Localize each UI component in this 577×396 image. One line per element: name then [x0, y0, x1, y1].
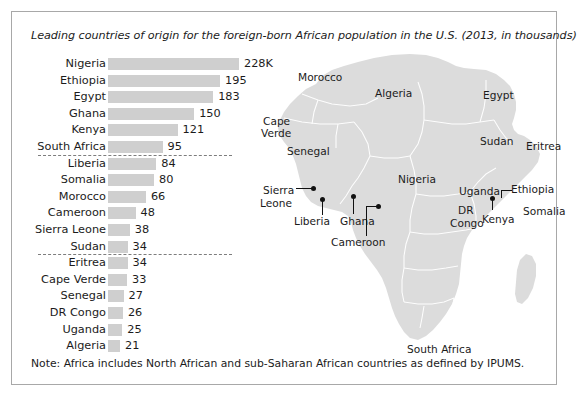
bar-value-label: 80 — [159, 173, 173, 186]
bar-row: South Africa95 — [12, 139, 282, 156]
map-label-cape-verde-2: Verde — [261, 128, 291, 140]
bar-fill — [108, 290, 124, 302]
uganda-leader — [501, 190, 512, 191]
map-label-cameroon: Cameroon — [331, 237, 386, 249]
bar-track — [108, 257, 128, 269]
bar-value-label: 121 — [183, 123, 205, 136]
bar-fill — [108, 91, 213, 103]
map-label-dr-congo: DR — [458, 205, 474, 217]
bar-category-label: Nigeria — [66, 57, 106, 70]
bar-fill — [108, 207, 136, 219]
bar-value-label: 33 — [132, 273, 146, 286]
bar-fill — [108, 158, 156, 170]
madagascar-path — [515, 254, 536, 304]
bar-track — [108, 207, 136, 219]
map-label-nigeria: Nigeria — [398, 174, 436, 186]
bar-value-label: 27 — [129, 289, 143, 302]
bar-track — [108, 191, 146, 203]
bar-row: DR Congo26 — [12, 305, 282, 322]
bar-row: Nigeria228K — [12, 56, 282, 73]
bar-row: Sudan34 — [12, 239, 282, 256]
bar-value-label: 84 — [161, 157, 175, 170]
bar-value-label: 150 — [199, 107, 221, 120]
map-label-liberia: Liberia — [294, 216, 330, 228]
map-label-senegal: Senegal — [287, 146, 330, 158]
bar-fill — [108, 124, 178, 136]
bar-category-label: Kenya — [71, 123, 106, 136]
map-label-sudan: Sudan — [480, 136, 513, 148]
bar-row: Cape Verde33 — [12, 272, 282, 289]
bar-category-label: Eritrea — [68, 256, 106, 269]
bar-track — [108, 241, 128, 253]
bar-fill — [108, 58, 239, 70]
map-label-dr-congo-2: Congo — [450, 218, 484, 230]
bar-row: Algeria21 — [12, 338, 282, 355]
bar-track — [108, 158, 156, 170]
map-label-ghana: Ghana — [340, 216, 375, 228]
bar-category-label: Cape Verde — [41, 273, 106, 286]
bar-fill — [108, 75, 220, 87]
map-label-egypt: Egypt — [483, 90, 514, 102]
bar-row: Eritrea34 — [12, 255, 282, 272]
bar-track — [108, 324, 122, 336]
bar-value-label: 195 — [225, 74, 247, 87]
bar-value-label: 34 — [133, 240, 147, 253]
bar-value-label: 26 — [128, 306, 142, 319]
bar-value-label: 66 — [151, 190, 165, 203]
sierra-leone-leader — [296, 188, 312, 189]
uganda-leader-v — [501, 190, 502, 198]
bar-category-label: Uganda — [62, 323, 106, 336]
bar-track — [108, 224, 130, 236]
map-label-cape-verde: Cape — [263, 116, 290, 128]
bar-fill — [108, 174, 154, 186]
bar-row: Egypt183 — [12, 89, 282, 106]
bar-track — [108, 124, 178, 136]
bar-value-label: 183 — [218, 90, 240, 103]
map-label-ethiopia: Ethiopia — [511, 184, 554, 196]
bar-row: Ghana150 — [12, 106, 282, 123]
bar-row: Uganda25 — [12, 322, 282, 339]
bar-row: Morocco66 — [12, 189, 282, 206]
ghana-leader — [353, 196, 354, 214]
bar-row: Cameroon48 — [12, 205, 282, 222]
bar-track — [108, 174, 154, 186]
bar-category-label: Cameroon — [48, 206, 106, 219]
bar-value-label: 25 — [127, 323, 141, 336]
map-label-sierra-leone: Sierra — [263, 185, 294, 197]
bar-category-label: Algeria — [66, 339, 106, 352]
bar-row: Liberia84 — [12, 156, 282, 173]
bar-value-label: 21 — [125, 339, 139, 352]
bar-fill — [108, 141, 163, 153]
map-label-kenya: Kenya — [482, 214, 514, 226]
bar-track — [108, 307, 123, 319]
infographic-panel: Leading countries of origin for the fore… — [11, 11, 557, 385]
bar-value-label: 34 — [133, 256, 147, 269]
cameroon-leader — [366, 206, 367, 236]
bar-fill — [108, 108, 194, 120]
bar-fill — [108, 241, 128, 253]
bar-category-label: Egypt — [73, 90, 106, 103]
bar-category-label: Sierra Leone — [35, 223, 106, 236]
map-label-south-africa: South Africa — [407, 344, 471, 356]
bar-category-label: Senegal — [61, 289, 106, 302]
bar-row: Kenya121 — [12, 122, 282, 139]
bar-fill — [108, 324, 122, 336]
bar-fill — [108, 340, 120, 352]
bar-track — [108, 91, 213, 103]
bar-track — [108, 58, 239, 70]
bar-track — [108, 75, 220, 87]
bar-fill — [108, 191, 146, 203]
chart-note: Note: Africa includes North African and … — [31, 357, 524, 370]
bar-category-label: DR Congo — [50, 306, 106, 319]
bar-row: Sierra Leone38 — [12, 222, 282, 239]
bar-fill — [108, 224, 130, 236]
bar-category-label: South Africa — [37, 140, 106, 153]
bar-track — [108, 340, 120, 352]
bar-track — [108, 274, 127, 286]
bar-row: Somalia80 — [12, 172, 282, 189]
africa-map: MoroccoAlgeriaEgyptCapeVerdeSudanEritrea… — [258, 24, 558, 364]
bar-category-label: Ghana — [69, 107, 106, 120]
map-label-morocco: Morocco — [298, 72, 342, 84]
bar-fill — [108, 274, 127, 286]
bar-track — [108, 290, 124, 302]
